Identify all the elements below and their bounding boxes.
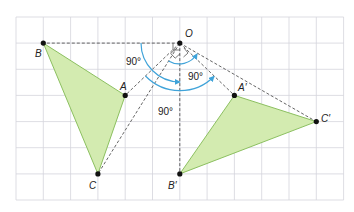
- point-a: [123, 93, 128, 98]
- point-c: [95, 171, 100, 176]
- label-b-prime: B′: [168, 180, 178, 191]
- label-o: O: [185, 28, 193, 39]
- point-b-prime: [177, 171, 182, 176]
- angle-label-1: 90°: [126, 56, 141, 67]
- point-o: [177, 41, 182, 46]
- label-c-prime: C′: [321, 113, 331, 124]
- angle-label-2: 90°: [188, 71, 203, 82]
- point-b: [41, 41, 46, 46]
- point-c-prime: [314, 119, 319, 124]
- point-a-prime: [232, 93, 237, 98]
- rotation-diagram: O A B C A′ B′ C′ 90° 90° 90°: [0, 0, 354, 212]
- angle-label-3: 90°: [158, 106, 173, 117]
- label-b: B: [35, 48, 42, 59]
- label-c: C: [89, 180, 97, 191]
- label-a-prime: A′: [237, 82, 248, 93]
- label-a: A: [119, 81, 127, 92]
- triangle-abc-image: [180, 95, 316, 173]
- triangle-abc: [43, 43, 125, 174]
